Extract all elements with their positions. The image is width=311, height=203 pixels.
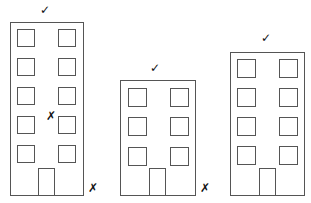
window <box>59 30 76 47</box>
window <box>171 89 189 107</box>
window <box>238 147 256 165</box>
window <box>18 30 35 47</box>
window <box>59 146 76 163</box>
window <box>238 60 256 78</box>
window <box>59 117 76 134</box>
window <box>280 89 298 107</box>
window <box>238 89 256 107</box>
window <box>18 146 35 163</box>
window <box>280 147 298 165</box>
window <box>280 60 298 78</box>
window <box>280 118 298 136</box>
door <box>260 169 276 196</box>
window <box>59 59 76 76</box>
door <box>150 169 166 196</box>
window <box>238 118 256 136</box>
window <box>171 118 189 136</box>
building-2-check-mark: ✓ <box>150 62 160 74</box>
window <box>129 148 147 166</box>
window <box>129 118 147 136</box>
building-2-side-x-mark: ✗ <box>200 182 210 194</box>
building-1-check-mark: ✓ <box>40 4 50 16</box>
window <box>18 88 35 105</box>
window <box>18 117 35 134</box>
building-1-inner-x-mark: ✗ <box>46 110 56 122</box>
building-1-side-x-mark: ✗ <box>88 182 98 194</box>
window <box>171 148 189 166</box>
building-3-check-mark: ✓ <box>261 32 271 44</box>
door <box>39 169 55 196</box>
window <box>59 88 76 105</box>
window <box>18 59 35 76</box>
window <box>129 89 147 107</box>
building-2-outline <box>121 81 196 196</box>
building-3-outline <box>231 53 305 196</box>
